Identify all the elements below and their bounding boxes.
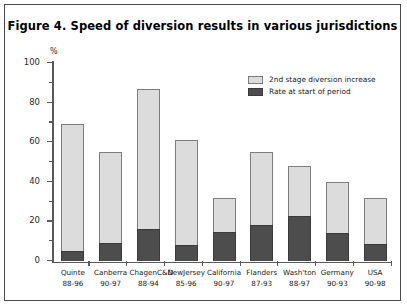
plot-area: 020406080100 bbox=[52, 61, 392, 263]
y-axis-unit-label: % bbox=[50, 47, 58, 56]
bar-segment-second-stage bbox=[99, 152, 122, 243]
category-label-7: Germany90-93 bbox=[318, 267, 356, 289]
bar-segment-second-stage bbox=[326, 182, 349, 233]
y-tick-label-40: 40 bbox=[29, 176, 40, 186]
bar-germany[interactable] bbox=[326, 182, 349, 261]
bar-flanders[interactable] bbox=[250, 152, 273, 261]
x-tick-4 bbox=[240, 261, 241, 266]
bar-segment-start-rate bbox=[61, 251, 84, 261]
category-label-8: USA90-98 bbox=[356, 267, 394, 289]
bar-wash-ton[interactable] bbox=[288, 166, 311, 261]
bar-usa[interactable] bbox=[364, 198, 387, 261]
category-name: Germany bbox=[318, 267, 356, 278]
category-label-0: Quinte88-96 bbox=[54, 267, 92, 289]
bar-chagenc-d[interactable] bbox=[137, 89, 160, 261]
y-tick-label-100: 100 bbox=[24, 57, 40, 67]
bar-segment-start-rate bbox=[288, 216, 311, 261]
bar-newjersey[interactable] bbox=[175, 140, 198, 261]
category-name: Quinte bbox=[54, 267, 92, 278]
bar-segment-start-rate bbox=[99, 243, 122, 261]
category-name: USA bbox=[356, 267, 394, 278]
category-axis-labels: Quinte88-96Canberra90-97ChagenC&D88-94Ne… bbox=[52, 267, 392, 301]
category-label-3: NewJersey85-96 bbox=[167, 267, 205, 289]
category-label-1: Canberra90-97 bbox=[92, 267, 130, 289]
bar-segment-second-stage bbox=[61, 124, 84, 251]
bar-canberra[interactable] bbox=[99, 152, 122, 261]
category-years: 85-96 bbox=[167, 278, 205, 289]
y-tick-label-80: 80 bbox=[29, 97, 40, 107]
category-years: 90-97 bbox=[205, 278, 243, 289]
category-label-2: ChagenC&D88-94 bbox=[130, 267, 168, 289]
x-tick-7 bbox=[353, 261, 354, 266]
category-years: 90-93 bbox=[318, 278, 356, 289]
bar-segment-start-rate bbox=[137, 229, 160, 261]
category-years: 88-94 bbox=[130, 278, 168, 289]
bar-segment-second-stage bbox=[213, 198, 236, 233]
category-label-6: Wash'ton88-97 bbox=[281, 267, 319, 289]
y-tick-label-60: 60 bbox=[29, 136, 40, 146]
x-tick-1 bbox=[126, 261, 127, 266]
bar-series bbox=[52, 61, 392, 262]
category-years: 88-97 bbox=[281, 278, 319, 289]
x-tick-0 bbox=[88, 261, 89, 266]
bar-quinte[interactable] bbox=[61, 124, 84, 261]
category-name: Wash'ton bbox=[281, 267, 319, 278]
bar-segment-start-rate bbox=[326, 233, 349, 261]
category-name: ChagenC&D bbox=[130, 267, 168, 278]
bar-segment-second-stage bbox=[364, 198, 387, 245]
y-tick-label-0: 0 bbox=[35, 255, 40, 265]
figure-frame: Figure 4. Speed of diversion results in … bbox=[4, 4, 401, 301]
bar-segment-second-stage bbox=[137, 89, 160, 230]
bar-segment-start-rate bbox=[364, 244, 387, 261]
bar-segment-start-rate bbox=[175, 245, 198, 261]
category-name: California bbox=[205, 267, 243, 278]
x-tick-2 bbox=[164, 261, 165, 266]
x-tick-5 bbox=[277, 261, 278, 266]
category-name: Flanders bbox=[243, 267, 281, 278]
bar-segment-second-stage bbox=[250, 152, 273, 225]
bar-segment-second-stage bbox=[288, 166, 311, 216]
y-tick-label-20: 20 bbox=[29, 215, 40, 225]
bar-segment-second-stage bbox=[175, 140, 198, 245]
category-years: 87-93 bbox=[243, 278, 281, 289]
bar-segment-start-rate bbox=[213, 232, 236, 261]
x-tick-8 bbox=[391, 261, 392, 266]
category-name: NewJersey bbox=[167, 267, 205, 278]
figure-title: Figure 4. Speed of diversion results in … bbox=[5, 19, 400, 33]
x-tick-3 bbox=[202, 261, 203, 266]
category-years: 88-96 bbox=[54, 278, 92, 289]
x-tick-6 bbox=[315, 261, 316, 266]
category-years: 90-97 bbox=[92, 278, 130, 289]
bar-california[interactable] bbox=[213, 198, 236, 261]
category-label-5: Flanders87-93 bbox=[243, 267, 281, 289]
category-label-4: California90-97 bbox=[205, 267, 243, 289]
category-years: 90-98 bbox=[356, 278, 394, 289]
bar-segment-start-rate bbox=[250, 225, 273, 261]
category-name: Canberra bbox=[92, 267, 130, 278]
